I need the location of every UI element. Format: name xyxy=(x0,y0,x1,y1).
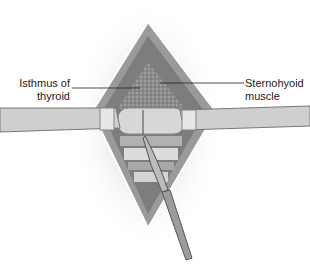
label-isthmus-line1: Isthmus of xyxy=(2,77,70,90)
label-sternohyoid-line1: Sternohyoid xyxy=(245,77,310,90)
label-sternohyoid-muscle: Sternohyoid muscle xyxy=(245,77,310,103)
label-isthmus-line2: thyroid xyxy=(2,90,70,103)
label-isthmus-of-thyroid: Isthmus of thyroid xyxy=(2,77,70,103)
right-retractor xyxy=(180,106,310,130)
surgical-illustration xyxy=(0,0,310,274)
label-sternohyoid-line2: muscle xyxy=(245,90,310,103)
